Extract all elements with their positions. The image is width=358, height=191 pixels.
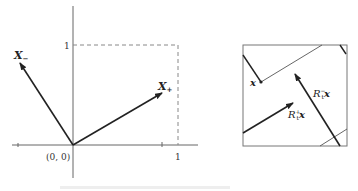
point-x: [259, 80, 262, 83]
left-panel: (0, 0) 1 1 X− X+: [12, 6, 198, 178]
caption-remnant: [60, 186, 230, 189]
y-tick-label: 1: [64, 41, 70, 51]
trajectory-seg-3: [340, 45, 346, 54]
right-panel: x R−tx R+tx: [243, 45, 347, 146]
trajectory-seg-2: [261, 45, 322, 82]
r-plus-label: R+tx: [287, 108, 306, 121]
r-minus-label: R−tx: [312, 87, 331, 100]
vector-r-plus: [243, 103, 293, 133]
point-x-label: x: [249, 77, 257, 88]
vector-x-plus: [73, 93, 162, 145]
x-minus-label: X−: [13, 49, 29, 63]
diagram-canvas: (0, 0) 1 1 X− X+ x R−tx R+tx: [0, 0, 358, 191]
x-tick-label: 1: [175, 152, 181, 162]
x-plus-label: X+: [157, 80, 173, 94]
vector-x-minus: [20, 63, 73, 145]
trajectory-seg-4: [320, 129, 347, 146]
origin-label: (0, 0): [46, 152, 70, 162]
